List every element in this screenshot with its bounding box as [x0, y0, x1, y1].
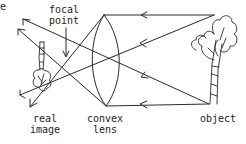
- ray-base-center: [23, 19, 209, 104]
- object-label: object: [196, 114, 240, 124]
- focal-point-label-line2: point: [44, 16, 84, 26]
- focal-point-label-line1: focal: [44, 5, 84, 15]
- object-tree: [192, 16, 237, 104]
- real-image-label-line1: real: [25, 114, 65, 124]
- ray-base-parallel: [18, 29, 209, 108]
- top-left-label-fragment: e: [0, 2, 6, 12]
- convex-lens-shape: [92, 15, 119, 106]
- lens-ray-diagram: e focal point real image convex lens obj…: [0, 0, 246, 144]
- convex-lens-label-line2: lens: [82, 125, 128, 135]
- convex-lens-label-line1: convex: [82, 114, 128, 124]
- focal-point-pointer: [63, 28, 69, 57]
- real-image-label-line2: image: [25, 125, 65, 135]
